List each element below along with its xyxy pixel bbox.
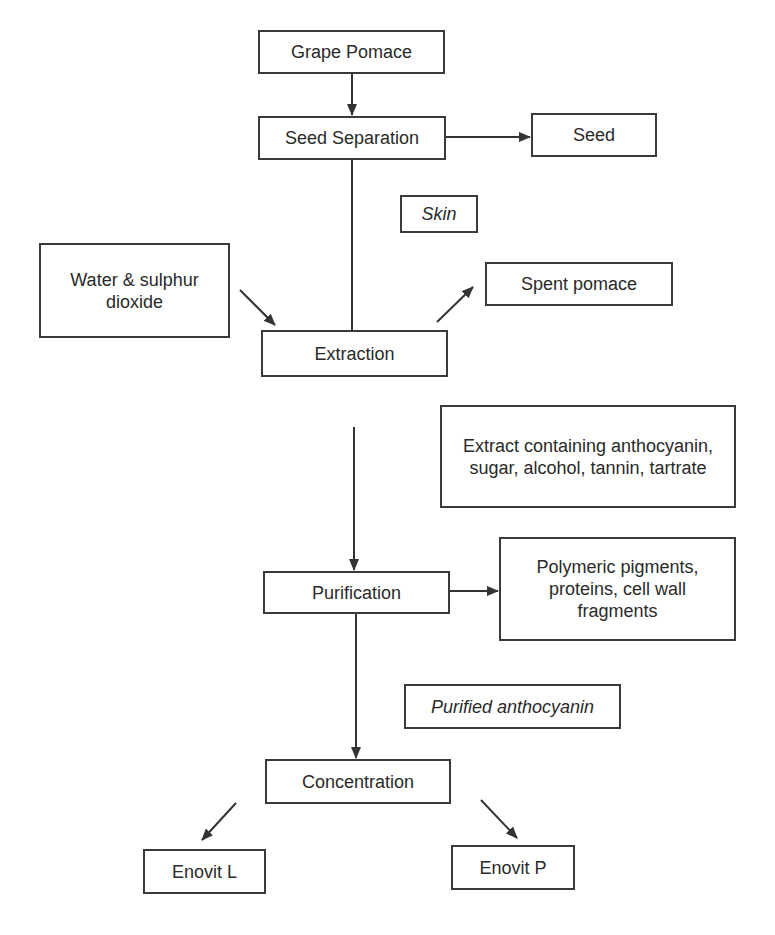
- node-seed: Seed: [531, 113, 657, 157]
- node-polymeric-byproducts: Polymeric pigments, proteins, cell wall …: [499, 537, 736, 641]
- node-spent-pomace: Spent pomace: [485, 262, 673, 306]
- node-seed-separation: Seed Separation: [258, 116, 446, 160]
- node-concentration: Concentration: [265, 759, 451, 804]
- node-enovit-l: Enovit L: [143, 849, 266, 894]
- node-grape-pomace: Grape Pomace: [258, 30, 445, 74]
- node-extraction: Extraction: [261, 330, 448, 377]
- node-water-sulphur-dioxide: Water & sulphur dioxide: [39, 243, 230, 338]
- node-enovit-p: Enovit P: [451, 845, 575, 890]
- arrow-concentration-to-enovit-p: [481, 800, 517, 838]
- label-extract-contents: Extract containing anthocyanin, sugar, a…: [440, 405, 736, 508]
- arrow-concentration-to-enovit-l: [202, 803, 236, 840]
- label-skin: Skin: [400, 195, 478, 233]
- arrow-water-to-extraction: [240, 290, 275, 325]
- arrow-extraction-to-spent: [437, 287, 473, 322]
- label-purified-anthocyanin: Purified anthocyanin: [404, 684, 621, 729]
- node-purification: Purification: [263, 571, 450, 614]
